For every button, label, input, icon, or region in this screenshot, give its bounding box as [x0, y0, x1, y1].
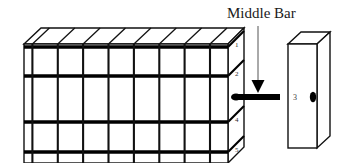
rack-level-label-2: 2 [235, 70, 239, 78]
callout-title: Middle Bar [227, 5, 296, 21]
side-box-right-face [317, 32, 330, 148]
diagram-canvas: 1 2 4 5 Middle Bar 3 [0, 0, 340, 163]
middle-bar-end-cap [231, 93, 241, 100]
callout-arrowhead-icon [252, 80, 265, 93]
rack-level-label-5: 5 [235, 146, 239, 154]
side-box [288, 32, 330, 148]
rack-front-face [24, 44, 228, 163]
rack-top-face [24, 28, 244, 44]
rack-top-surface [24, 28, 244, 44]
middle-bar-diagram: 1 2 4 5 Middle Bar 3 [0, 0, 340, 163]
side-box-label: 3 [293, 93, 297, 102]
oval-slot-icon [310, 92, 316, 102]
rack-level-label-4: 4 [235, 116, 239, 124]
rack-level-label-1: 1 [235, 41, 239, 49]
rack-front-surface [24, 44, 228, 163]
